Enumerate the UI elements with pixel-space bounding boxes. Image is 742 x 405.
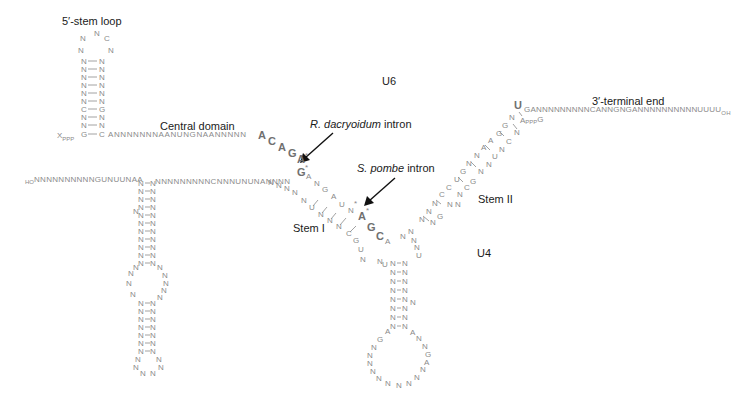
svg-text:A: A [385, 237, 391, 246]
svg-text:N: N [499, 145, 505, 154]
svg-text:N: N [292, 188, 298, 197]
svg-text:N: N [390, 277, 396, 286]
u6-ppp-cap: APPPG [520, 115, 544, 125]
svg-text:N: N [133, 263, 139, 272]
label-s-pombe-intron: S. pombe intron [357, 162, 435, 174]
svg-text:C: C [446, 183, 452, 192]
svg-text:N: N [150, 259, 156, 268]
svg-text:*: * [305, 151, 308, 160]
svg-text:N: N [509, 113, 515, 122]
svg-text:U: U [454, 175, 460, 184]
svg-text:N: N [360, 255, 366, 264]
rna-secondary-structure-diagram: 5′-stem loop Central domain U6 U4 3′-ter… [0, 0, 742, 405]
svg-text:N: N [390, 259, 396, 268]
svg-text:N: N [138, 259, 144, 268]
svg-text:N: N [276, 181, 282, 190]
svg-text:A: A [331, 192, 337, 201]
svg-text:C: C [99, 130, 105, 139]
svg-text:N: N [268, 178, 274, 187]
svg-text:N: N [133, 363, 139, 372]
svg-text:N: N [314, 179, 320, 188]
svg-text:N: N [385, 379, 391, 388]
svg-text:N: N [416, 334, 422, 343]
svg-text:N: N [400, 232, 406, 241]
svg-text:N: N [81, 121, 87, 130]
svg-text:G: G [460, 167, 466, 176]
svg-text:G: G [470, 177, 476, 186]
svg-text:G: G [437, 212, 443, 221]
svg-text:C: C [376, 230, 384, 242]
svg-text:N: N [301, 196, 307, 205]
svg-text:N: N [402, 286, 408, 295]
label-r-dacryoidum-intron: R. dacryoidum intron [310, 118, 412, 130]
svg-text:A: A [297, 153, 305, 165]
svg-text:N: N [419, 215, 425, 224]
svg-text:*: * [354, 199, 357, 208]
u6-3-terminal-sequence: GANNNNNNNNNCANNGNGANNNNNNNNNNUUUUOH [524, 105, 731, 116]
u6-5-cap: XPPP [57, 131, 74, 142]
svg-text:N: N [157, 293, 163, 302]
svg-text:N: N [430, 218, 436, 227]
svg-text:A: A [424, 358, 430, 367]
svg-text:N: N [478, 167, 484, 176]
svg-text:N: N [126, 279, 132, 288]
label-stem-2: Stem II [478, 193, 513, 205]
svg-text:G: G [322, 185, 328, 194]
svg-text:N: N [390, 286, 396, 295]
svg-text:G: G [288, 147, 297, 159]
svg-text:G: G [353, 236, 359, 245]
svg-text:N: N [140, 369, 146, 378]
svg-text:N: N [426, 207, 432, 216]
u4-central-stem-loop: N U NN NN NN NN NN N NN NN NN A G N N N … [367, 257, 431, 390]
svg-text:N: N [402, 259, 408, 268]
svg-text:U: U [514, 99, 522, 111]
svg-text:N: N [514, 128, 520, 137]
label-u4: U4 [477, 247, 491, 259]
label-5-stem-loop: 5′-stem loop [62, 15, 122, 27]
svg-text:N: N [402, 295, 408, 304]
svg-text:A: A [481, 143, 487, 152]
svg-text:N: N [410, 298, 416, 307]
svg-text:N: N [390, 313, 396, 322]
svg-text:N: N [406, 379, 412, 388]
svg-text:N: N [133, 207, 139, 216]
svg-text:A: A [278, 141, 286, 153]
svg-text:G: G [425, 350, 431, 359]
svg-text:C: C [268, 135, 276, 147]
svg-text:N: N [284, 184, 290, 193]
svg-text:N: N [408, 227, 414, 236]
svg-text:A: A [385, 327, 391, 336]
svg-text:N: N [390, 322, 396, 331]
svg-text:G: G [367, 221, 376, 233]
svg-text:N: N [422, 342, 428, 351]
label-stem-1: Stem I [293, 222, 325, 234]
svg-text:N: N [466, 159, 472, 168]
u4-5-end: HONNNNNNNNNNGUNUUNAA [25, 175, 143, 185]
svg-text:*: * [305, 163, 308, 172]
u4-5-stem-loop: NN NN NN NN NN N NN NN NN NN NN NN N N N… [126, 179, 169, 378]
svg-text:G: G [502, 121, 508, 130]
svg-text:N: N [402, 277, 408, 286]
u6-acaga-box: A C A G A* G* A [258, 129, 312, 181]
svg-text:N: N [402, 313, 408, 322]
stem-2-u4-strand: N N N N U N G N N N C G N N U N C N [400, 112, 522, 260]
svg-text:N: N [150, 369, 156, 378]
stem-1-u4-strand: N N N N N U N N N C G U N [268, 178, 366, 264]
arrow-s-pombe [364, 178, 395, 206]
svg-text:N: N [108, 46, 114, 55]
svg-text:N: N [78, 46, 84, 55]
svg-text:A: A [488, 136, 494, 145]
svg-text:A: A [306, 172, 312, 181]
svg-text:C: C [506, 137, 512, 146]
svg-text:N: N [402, 268, 408, 277]
svg-text:C: C [104, 34, 110, 43]
svg-text:G: G [377, 335, 383, 344]
svg-text:*: * [366, 206, 369, 215]
stem-pairs: NN NN NN NN NN NN CG NN NN [81, 57, 105, 130]
svg-text:N: N [128, 269, 134, 278]
svg-text:N: N [80, 34, 86, 43]
svg-text:N: N [402, 322, 408, 331]
svg-text:A: A [410, 328, 416, 337]
svg-text:N: N [474, 151, 480, 160]
svg-text:N: N [94, 29, 100, 38]
